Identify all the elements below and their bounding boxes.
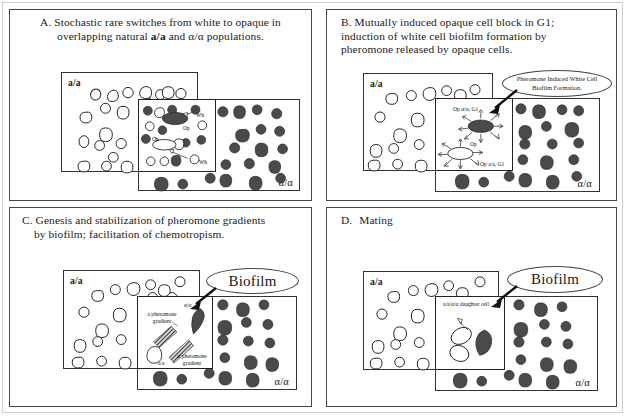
panel-c-title-line2: by biofilm; facilitation of chemotropism… bbox=[22, 228, 224, 242]
panel-c: C. Genesis and stabilization of pheromon… bbox=[9, 207, 312, 407]
panel-d-title-line1: Mating bbox=[355, 214, 393, 226]
panel-b-title-line3: pheromone released by opaque cells. bbox=[341, 43, 512, 55]
panel-c-label-a-gradient: a pheromone gradient bbox=[140, 311, 184, 325]
panel-b: B. Mutually induced opaque cell block in… bbox=[326, 9, 617, 201]
panel-a-overlap-zone: Wh Op Op Wh bbox=[138, 99, 216, 172]
panel-a-label-wh-upper: Wh bbox=[196, 112, 204, 119]
panel-c-title: C. Genesis and stabilization of pheromon… bbox=[10, 214, 311, 241]
panel-c-label-a-cell: a/a bbox=[158, 360, 165, 367]
panel-d-label-daughter-cell: a/a/α/α daughter cell bbox=[440, 301, 492, 308]
panel-c-callout-arrow bbox=[188, 286, 222, 312]
panel-a-title-mid: and bbox=[166, 30, 189, 42]
panel-b-letter: B. bbox=[341, 16, 352, 28]
panel-a-letter: A. bbox=[40, 16, 51, 28]
panel-a-title-alpha: α/α bbox=[188, 30, 203, 42]
panel-c-callout-text: Biofilm bbox=[228, 273, 276, 290]
panel-b-title: B. Mutually induced opaque cell block in… bbox=[327, 16, 616, 57]
panel-b-title-line1: Mutually induced opaque cell block in G1… bbox=[355, 16, 555, 28]
panel-a-title-post: populations. bbox=[204, 30, 264, 42]
panel-a-title-line1: Stochastic rare switches from white to o… bbox=[54, 16, 281, 28]
panel-a-label-op-lower: Op bbox=[152, 136, 159, 143]
panel-b-label-op-alpha-g1: Op α/α, G1 bbox=[453, 106, 478, 113]
panel-a-title-line2-pre: overlapping natural bbox=[57, 30, 151, 42]
panel-c-title-line1: Genesis and stabilization of pheromone g… bbox=[36, 214, 266, 226]
panel-a-title-a: a/a bbox=[151, 30, 166, 42]
panel-a-title: A. Stochastic rare switches from white t… bbox=[10, 16, 311, 43]
panel-b-label-op: Op bbox=[470, 141, 477, 148]
panel-d-callout-text: Biofilm bbox=[531, 271, 579, 288]
panel-b-title-line2: induction of white cell biofilm formatio… bbox=[341, 30, 547, 42]
panel-d: D. Mating a/a bbox=[326, 207, 617, 407]
panel-a-label-op-upper: Op bbox=[183, 125, 190, 132]
figure-root: A. Stochastic rare switches from white t… bbox=[0, 0, 626, 416]
panel-c-letter: C. bbox=[22, 214, 33, 226]
panel-a: A. Stochastic rare switches from white t… bbox=[9, 9, 312, 201]
panel-a-label-wh-lower: Wh bbox=[199, 159, 207, 166]
panel-c-label-alpha-gradient: α pheromone gradient bbox=[170, 353, 214, 367]
panel-b-label-op-a-g1: Op a/a, G1 bbox=[480, 161, 504, 168]
panel-d-title: D. Mating bbox=[327, 214, 616, 228]
panel-d-letter: D. bbox=[341, 214, 352, 226]
panel-d-callout-arrow bbox=[489, 284, 523, 310]
panel-b-callout-arrow bbox=[487, 88, 523, 114]
